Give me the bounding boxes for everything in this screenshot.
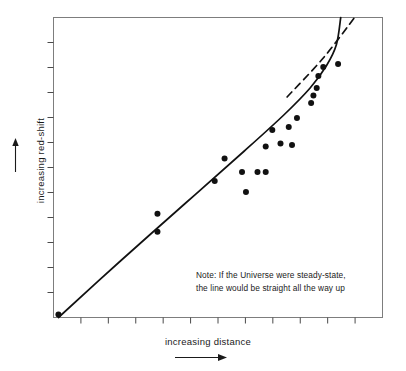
data-point-marker	[212, 178, 218, 184]
data-point-marker	[310, 93, 316, 99]
data-point-marker	[263, 144, 269, 150]
x-axis-label: increasing distance	[103, 336, 313, 347]
y-axis-label: increasing red-shift	[35, 91, 46, 231]
data-point-marker	[254, 169, 260, 175]
plot-canvas	[0, 0, 406, 371]
data-point-marker	[315, 73, 321, 79]
data-point-marker	[308, 100, 314, 106]
data-point-marker	[335, 61, 341, 67]
x-axis-ticks	[81, 318, 355, 324]
x-axis-direction-arrow	[175, 354, 227, 361]
data-point-marker	[278, 141, 284, 147]
data-point-marker	[269, 127, 275, 133]
data-point-marker	[263, 169, 269, 175]
y-axis-ticks	[48, 43, 54, 293]
data-point-marker	[239, 169, 245, 175]
data-point-marker	[320, 64, 326, 70]
data-point-marker	[222, 156, 228, 162]
data-point-marker	[294, 115, 300, 121]
data-point-marker	[314, 85, 320, 91]
data-point-marker	[286, 124, 292, 130]
data-point-marker	[154, 229, 160, 235]
annotation-line-2: the line would be straight all the way u…	[196, 282, 378, 295]
plot-annotation-note: Note: If the Universe were steady-state,…	[196, 269, 378, 296]
y-axis-label-group: increasing red-shift	[12, 96, 48, 246]
annotation-line-1: Note: If the Universe were steady-state,	[196, 269, 378, 282]
data-point-marker	[243, 189, 249, 195]
data-point-marker	[289, 142, 295, 148]
data-point-marker	[154, 211, 160, 217]
data-point-marker	[55, 312, 61, 318]
figure-root: increasing red-shift increasing distance…	[0, 0, 406, 371]
